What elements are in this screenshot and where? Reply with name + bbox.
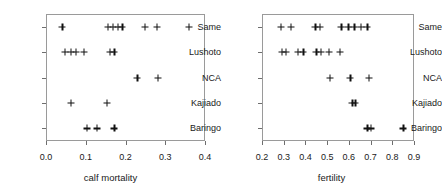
y-tick-label-kajiado: Kajiado xyxy=(178,98,221,107)
x-tick xyxy=(392,141,393,145)
y-tick-label-same: Same xyxy=(404,22,442,31)
x-tick-label: 0.9 xyxy=(408,153,421,162)
y-tick-baringo xyxy=(258,128,262,129)
x-tick-label: 0.7 xyxy=(364,153,377,162)
y-tick-label-lushoto: Lushoto xyxy=(178,48,221,57)
panel-calf-mortality: SameLushotoNCAKajiadoBaringo calf mortal… xyxy=(0,0,221,194)
x-tick xyxy=(86,141,87,145)
y-tick-same xyxy=(258,27,262,28)
y-axis-right: SameLushotoNCAKajiadoBaringo xyxy=(221,14,442,141)
x-tick xyxy=(284,141,285,145)
y-tick-nca xyxy=(42,78,46,79)
x-axis-title-left: calf mortality xyxy=(0,172,221,183)
x-tick-label: 0.2 xyxy=(256,153,269,162)
x-tick xyxy=(165,141,166,145)
y-tick-label-same: Same xyxy=(178,22,221,31)
x-tick-label: 0.0 xyxy=(40,153,53,162)
x-tick-label: 0.3 xyxy=(277,153,290,162)
x-tick xyxy=(305,141,306,145)
y-tick-kajiado xyxy=(42,103,46,104)
x-tick xyxy=(349,141,350,145)
y-tick-label-baringo: Baringo xyxy=(404,124,442,133)
x-tick xyxy=(414,141,415,145)
x-tick xyxy=(46,141,47,145)
y-tick-lushoto xyxy=(258,52,262,53)
x-tick-label: 0.2 xyxy=(119,153,132,162)
y-axis-left: SameLushotoNCAKajiadoBaringo xyxy=(0,14,221,141)
x-tick xyxy=(126,141,127,145)
x-tick-label: 0.3 xyxy=(159,153,172,162)
y-tick-label-nca: NCA xyxy=(178,73,221,82)
y-tick-label-nca: NCA xyxy=(404,73,442,82)
y-tick-same xyxy=(42,27,46,28)
x-axis-title-right: fertility xyxy=(221,172,442,183)
x-tick xyxy=(262,141,263,145)
x-tick xyxy=(371,141,372,145)
x-tick-label: 0.6 xyxy=(343,153,356,162)
x-tick xyxy=(205,141,206,145)
y-tick-nca xyxy=(258,78,262,79)
y-tick-label-lushoto: Lushoto xyxy=(404,48,442,57)
x-tick-label: 0.4 xyxy=(299,153,312,162)
y-tick-baringo xyxy=(42,128,46,129)
y-tick-kajiado xyxy=(258,103,262,104)
y-tick-lushoto xyxy=(42,52,46,53)
y-tick-label-baringo: Baringo xyxy=(178,124,221,133)
x-tick-label: 0.8 xyxy=(386,153,399,162)
figure-two-panel-stripplot: SameLushotoNCAKajiadoBaringo calf mortal… xyxy=(0,0,442,194)
x-tick-label: 0.5 xyxy=(321,153,334,162)
panel-fertility: SameLushotoNCAKajiadoBaringo fertility 0… xyxy=(221,0,442,194)
y-tick-label-kajiado: Kajiado xyxy=(404,98,442,107)
x-tick-label: 0.1 xyxy=(79,153,92,162)
x-tick-label: 0.4 xyxy=(199,153,212,162)
x-tick xyxy=(327,141,328,145)
